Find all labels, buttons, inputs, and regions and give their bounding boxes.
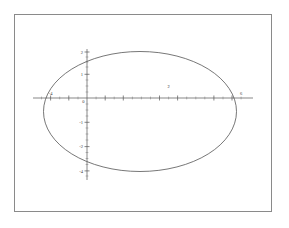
y-tick-label-0: 0 bbox=[82, 99, 85, 104]
y-tick-label-neg4: -4 bbox=[79, 169, 83, 174]
ellipse-curve bbox=[44, 52, 237, 172]
plot-figure: -4 -2 2 6 2 1 0 -1 -2 -3 -4 · bbox=[0, 0, 289, 228]
y-tick-label-1: 1 bbox=[81, 72, 83, 77]
y-tick-label-neg2: -2 bbox=[79, 144, 83, 149]
x-tick-label-neg4: -4 bbox=[49, 91, 53, 96]
x-tick-label-6: 6 bbox=[240, 91, 243, 96]
y-tick-label-2: 2 bbox=[81, 50, 83, 55]
plot-canvas: -4 -2 2 6 2 1 0 -1 -2 -3 -4 · bbox=[0, 0, 289, 228]
y-tick-label-neg1: -1 bbox=[79, 120, 83, 125]
